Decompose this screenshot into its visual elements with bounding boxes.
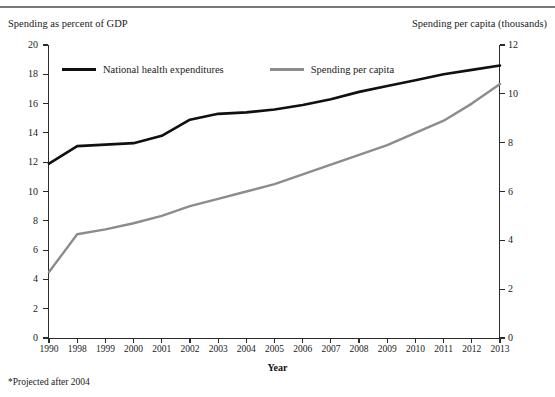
series-lines bbox=[0, 0, 555, 397]
chart-legend: National health expenditures Spending pe… bbox=[62, 64, 394, 75]
x-axis-title: Year bbox=[0, 362, 555, 373]
line-spending-per-capita bbox=[49, 84, 500, 272]
legend-item-spending-per-capita: Spending per capita bbox=[270, 64, 394, 75]
legend-label: Spending per capita bbox=[311, 64, 394, 75]
legend-label: National health expenditures bbox=[103, 64, 224, 75]
line-national-health-expenditures bbox=[49, 66, 500, 164]
footnote: *Projected after 2004 bbox=[8, 377, 90, 387]
legend-swatch-gray bbox=[270, 68, 304, 71]
legend-item-national-health-expenditures: National health expenditures bbox=[62, 64, 224, 75]
legend-swatch-black bbox=[62, 68, 96, 71]
chart-figure: Spending as percent of GDP Spending per … bbox=[0, 0, 555, 397]
